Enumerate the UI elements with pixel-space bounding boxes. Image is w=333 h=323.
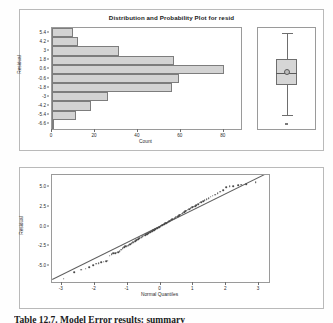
histogram-x-tick: [94, 129, 95, 132]
qq-data-point: [217, 192, 219, 194]
histogram-bar: [52, 101, 91, 110]
qq-data-point: [92, 265, 94, 267]
qq-data-point: [95, 263, 97, 265]
figure-caption: Table 12.7. Model Error results: summary: [14, 315, 333, 323]
histogram-x-tick-label: 60: [177, 133, 182, 138]
histogram-plot-area: [51, 27, 242, 130]
qq-data-point: [233, 185, 235, 187]
qq-x-tick: [192, 282, 193, 285]
histogram-x-tick: [180, 129, 181, 132]
qq-x-tick-label: -2: [92, 286, 96, 291]
histogram-y-tick-label: -6.6: [38, 121, 46, 126]
histogram-y-tick: [47, 114, 50, 115]
boxplot-outlier-point: [285, 123, 287, 125]
chart-title: Distribution and Probability Plot for re…: [20, 14, 323, 21]
histogram-bar: [52, 46, 119, 55]
boxplot-mean-marker: [284, 69, 290, 75]
qq-data-point: [237, 185, 239, 187]
boxplot-graphic: [258, 28, 315, 129]
histogram-bar: [52, 111, 76, 120]
histogram-x-tick-label: 0: [50, 133, 53, 138]
histogram-y-tick-label: 0.6: [40, 66, 46, 71]
qq-data-point: [222, 189, 224, 191]
qq-data-point: [229, 186, 231, 188]
histogram-y-tick: [47, 123, 50, 124]
histogram-y-tick-label: -3: [42, 93, 46, 98]
boxplot-lower-whisker-cap: [282, 115, 293, 116]
qq-y-tick-label: 2.5: [40, 203, 46, 208]
distribution-panel: Distribution and Probability Plot for re…: [19, 9, 324, 151]
qq-y-tick: [47, 185, 50, 186]
histogram-y-tick: [47, 49, 50, 50]
qq-data-point: [245, 183, 247, 185]
qq-y-tick: [47, 265, 50, 266]
qq-data-point: [80, 269, 82, 271]
qq-data-point: [119, 250, 121, 252]
qq-data-point: [240, 184, 242, 186]
histogram-bar: [52, 56, 174, 65]
qq-data-point: [214, 194, 216, 196]
figure-container: Distribution and Probability Plot for re…: [0, 0, 333, 323]
qq-y-tick-label: 5.0: [40, 183, 46, 188]
histogram-y-tick-label: 4.2: [40, 38, 46, 43]
qq-y-axis-title: Residual: [19, 216, 24, 235]
histogram-bar: [52, 28, 73, 37]
histogram-bar: [52, 92, 108, 101]
qq-y-axis: 5.02.50.0-2.5-5.0: [20, 174, 49, 281]
qq-data-point: [225, 186, 227, 188]
qq-y-tick: [47, 225, 50, 226]
histogram-y-tick-label: 5.4: [40, 29, 46, 34]
qq-x-tick: [258, 282, 259, 285]
histogram-x-tick-label: 20: [91, 133, 96, 138]
histogram-x-tick-label: 80: [220, 133, 225, 138]
qq-x-tick-label: 2: [224, 286, 227, 291]
boxplot-upper-whisker-cap: [282, 33, 293, 34]
histogram-y-axis: 5.44.231.80.6-0.6-1.8-3-4.2-5.4-6.6: [20, 27, 49, 128]
histogram-y-tick-label: 1.8: [40, 57, 46, 62]
probability-plot-panel: 5.02.50.0-2.5-5.0 Residual -3-2-10123 No…: [19, 167, 324, 309]
boxplot-plot-area: [257, 27, 316, 130]
histogram-y-tick: [47, 59, 50, 60]
qq-x-tick: [61, 282, 62, 285]
qq-data-point: [89, 266, 91, 268]
qq-data-point: [63, 278, 65, 280]
qq-x-tick: [225, 282, 226, 285]
histogram-bar: [52, 120, 54, 129]
histogram-bar: [52, 65, 224, 74]
histogram-y-tick: [47, 68, 50, 69]
histogram-x-tick: [137, 129, 138, 132]
histogram-y-tick: [47, 77, 50, 78]
histogram-x-tick: [223, 129, 224, 132]
qq-x-tick: [94, 282, 95, 285]
qq-plot-area: [51, 174, 270, 283]
qq-x-tick-label: -3: [59, 286, 63, 291]
histogram-x-tick-label: 40: [134, 133, 139, 138]
qq-data-point: [255, 181, 257, 183]
qq-x-axis: -3-2-10123: [51, 282, 268, 291]
histogram-y-tick: [47, 95, 50, 96]
histogram-y-tick: [47, 86, 50, 87]
qq-x-tick-label: 1: [191, 286, 194, 291]
qq-y-tick-label: -5.0: [38, 263, 46, 268]
qq-y-tick-label: -2.5: [38, 243, 46, 248]
histogram-y-tick-label: -5.4: [38, 112, 46, 117]
qq-x-tick-label: 0: [158, 286, 161, 291]
qq-x-tick: [127, 282, 128, 285]
histogram-bar: [52, 37, 78, 46]
histogram-x-tick: [51, 129, 52, 132]
qq-data-point: [107, 260, 109, 262]
histogram-y-axis-title: Residual: [17, 55, 22, 74]
qq-data-point: [109, 255, 111, 257]
histogram-bar: [52, 74, 179, 83]
qq-x-tick-label: 3: [257, 286, 260, 291]
histogram-y-tick: [47, 105, 50, 106]
qq-x-tick-label: -1: [125, 286, 129, 291]
qq-data-point: [74, 271, 76, 273]
qq-y-tick: [47, 245, 50, 246]
histogram-x-axis-title: Count: [51, 139, 240, 144]
qq-data-point: [85, 268, 87, 270]
qq-data-point: [98, 262, 100, 264]
qq-x-tick: [160, 282, 161, 285]
qq-x-axis-title: Normal Quantiles: [51, 292, 268, 297]
qq-y-tick-label: 0.0: [40, 223, 46, 228]
